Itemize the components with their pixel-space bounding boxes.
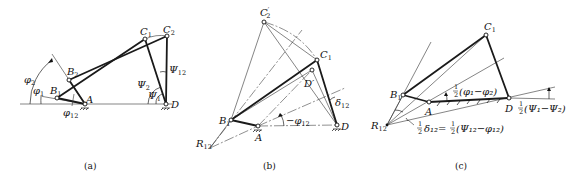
svg-text:1: 1 [418, 120, 422, 128]
panel-c-label-c1: C1 [484, 21, 496, 34]
panel-b-label-r12: R12 [195, 138, 212, 151]
panel-c-label-r12: R12 [370, 120, 387, 133]
panel-b-c2p-d [264, 22, 337, 125]
panel-a-joint-b2 [67, 78, 71, 82]
panel-c-label-b1: B1 [389, 89, 402, 102]
panel-b-link-b1c1 [231, 60, 317, 120]
panel-c-delta-arc-1 [395, 110, 403, 112]
panel-b-label-d: D [340, 121, 349, 132]
panel-b-ray-r12-a [210, 126, 258, 148]
svg-text:1: 1 [451, 120, 455, 128]
panel-a-label-psi12: Ψ12 [169, 64, 186, 77]
panel-a-label-b2: B2 [66, 66, 79, 79]
panel-c-label-a: A [424, 106, 432, 117]
panel-b-ground-d [332, 123, 341, 131]
panel-b-label-a: A [254, 132, 262, 143]
panel-b-phi12-arrow [278, 113, 283, 117]
svg-text:2: 2 [519, 108, 523, 116]
svg-text:2: 2 [451, 128, 455, 136]
panel-a-label-d: D [170, 99, 179, 110]
panel-c-joint-a [427, 100, 431, 104]
panel-b-c2p-c1 [264, 22, 317, 60]
panel-a-label-a: A [85, 94, 93, 105]
panel-b-joint-c1 [315, 58, 319, 62]
linkage-figure: A D B1 B2 C1 C2 φ2 φ1 φ12 Ψ12 Ψ2 Ψ1 (a) [0, 0, 576, 186]
svg-text:(Ψ₁−Ψ₂): (Ψ₁−Ψ₂) [524, 103, 566, 114]
panel-c-joint-c1 [484, 33, 488, 37]
panel-b-link-ab1 [231, 120, 258, 126]
panel-b-label-c1: C1 [320, 49, 332, 62]
panel-c-label-half-delta: 1 2 δ₁₂= 1 2 (Ψ₁₂−φ₁₂) [417, 120, 504, 136]
panel-b-joint-dprime [310, 68, 314, 72]
svg-text:2: 2 [418, 128, 422, 136]
svg-text:1: 1 [454, 83, 458, 91]
panel-c-joint-d [507, 96, 511, 100]
panel-b-joint-c2p [262, 20, 266, 24]
panel-a-link-c2d [166, 36, 167, 104]
panel-c-caption: (c) [455, 161, 467, 171]
panel-b-label-b1: B1 [218, 115, 231, 128]
panel-b-label-dprime: D′ [303, 78, 315, 89]
panel-a-joint-c1 [143, 37, 147, 41]
panel-a-link-b2c2 [69, 36, 167, 80]
panel-c: B1 A D C1 R12 1 2 (φ₁−φ₂) 1 2 (Ψ₁−Ψ₂) 1 … [370, 21, 566, 171]
panel-b-phi12-arc [281, 115, 284, 126]
panel-a-caption: (a) [84, 161, 96, 171]
panel-a-label-b1: B1 [49, 85, 62, 98]
panel-a-label-psi1: Ψ1 [148, 90, 161, 103]
panel-a-psi12-arc [160, 72, 166, 73]
panel-a-label-phi1: φ1 [33, 85, 44, 98]
panel-c-delta-leader [408, 120, 414, 125]
panel-b-label-c2p: C′2 [260, 6, 270, 20]
panel-c-ad-ext [509, 98, 555, 99]
panel-c-label-half-psi-diff: 1 2 (Ψ₁−Ψ₂) [518, 100, 566, 116]
panel-c-joint-b1 [401, 93, 405, 97]
panel-c-label-d: D [504, 103, 513, 114]
panel-c-psi-diff-arrow [547, 87, 551, 91]
panel-a: A D B1 B2 C1 C2 φ2 φ1 φ12 Ψ12 Ψ2 Ψ1 (a) [20, 24, 186, 171]
svg-text:(Ψ₁₂−φ₁₂): (Ψ₁₂−φ₁₂) [456, 123, 504, 134]
panel-a-phi2-arrow [48, 58, 53, 63]
svg-text:(φ₁−φ₂): (φ₁−φ₂) [459, 86, 497, 97]
svg-text:δ₁₂=: δ₁₂= [424, 123, 446, 134]
panel-c-label-half-phi-diff: 1 2 (φ₁−φ₂) [453, 83, 497, 99]
panel-b-label-neg-phi12: −φ12 [286, 115, 310, 128]
panel-b-b1-c2p [231, 22, 264, 120]
panel-b-caption: (b) [263, 161, 276, 171]
panel-c-phi-diff-arrow [444, 92, 448, 96]
panel-a-ground-d [161, 102, 170, 110]
panel-c-link-b1a [403, 95, 429, 102]
svg-text:2: 2 [454, 91, 458, 99]
panel-b-label-delta12: δ12 [335, 97, 349, 110]
svg-text:1: 1 [519, 100, 523, 108]
panel-a-label-phi12: φ12 [63, 107, 78, 120]
panel-b: A D B1 C′2 C1 D′ R12 −φ12 δ12 (b) [195, 6, 349, 171]
